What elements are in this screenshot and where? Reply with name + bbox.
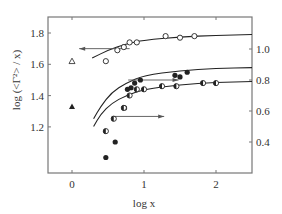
y-tick-label-right: 0.8	[256, 74, 270, 86]
plot-border	[48, 17, 252, 173]
y-tick-label-left: 1.4	[30, 90, 44, 102]
filled-circle-marker	[185, 70, 190, 75]
open-circle-marker	[163, 34, 168, 39]
fit-curve	[92, 35, 252, 58]
y-tick-label-right: 0.4	[256, 136, 270, 148]
y-tick-label-right: 1.0	[256, 43, 270, 55]
x-axis-title: log x	[133, 197, 156, 209]
arrow-head	[173, 78, 179, 82]
chart: 012 1.21.41.61.8 0.40.60.81.0 log x log …	[0, 0, 282, 214]
open-circle-marker	[177, 35, 182, 40]
open-circle-marker	[103, 59, 108, 64]
filled-circle-marker	[103, 155, 108, 160]
open-circle-marker	[127, 40, 132, 45]
filled-circle-marker	[138, 77, 143, 82]
filled-circle-marker	[172, 73, 177, 78]
x-axis: 012	[69, 17, 219, 190]
filled-triangle-marker	[69, 104, 75, 109]
y-tick-label-right: 0.6	[256, 105, 270, 117]
filled-circle-marker	[113, 139, 118, 144]
open-triangle-marker	[69, 58, 75, 63]
filled-circle-marker	[128, 85, 133, 90]
data-points	[69, 34, 219, 161]
y-tick-label-left: 1.2	[30, 121, 44, 133]
arrow-head	[79, 47, 85, 51]
open-circle-marker	[115, 48, 120, 53]
x-tick-label: 0	[69, 178, 75, 190]
open-circle-marker	[192, 34, 197, 39]
y-tick-label-left: 1.8	[30, 27, 44, 39]
open-circle-marker	[134, 40, 139, 45]
filled-circle-marker	[132, 81, 137, 86]
arrow-head	[158, 114, 164, 118]
plot-frame	[48, 17, 252, 173]
x-tick-label: 1	[141, 178, 147, 190]
filled-circle-marker	[177, 74, 182, 79]
x-tick-label: 2	[213, 178, 219, 190]
y-axis-title: log (<Γ²> / x)	[10, 50, 23, 111]
open-circle-marker	[121, 44, 126, 49]
y-tick-label-left: 1.6	[30, 58, 44, 70]
